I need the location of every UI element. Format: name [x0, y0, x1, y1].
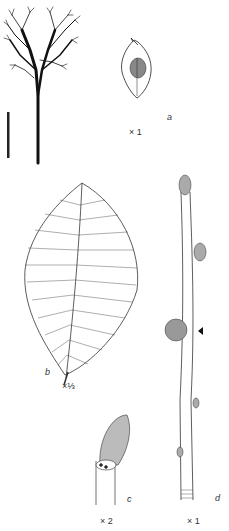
panel-b-scale: ×⅓	[62, 381, 75, 391]
panel-c-scale: × 2	[100, 516, 113, 526]
samara-illustration	[122, 38, 152, 98]
pointer-arrow-icon	[198, 327, 203, 335]
panel-a-letter: a	[167, 112, 172, 122]
panel-c-letter: c	[127, 494, 132, 504]
panel-d-letter: d	[215, 493, 220, 503]
botanical-plate	[0, 0, 229, 531]
bud-closeup-illustration	[96, 415, 130, 505]
panel-b-letter: b	[45, 367, 50, 377]
panel-a-scale: × 1	[129, 127, 142, 137]
panel-d-scale: × 1	[187, 516, 200, 526]
leaf-illustration	[25, 183, 138, 385]
twig-illustration	[165, 175, 206, 500]
scale-bar	[7, 112, 10, 158]
tree-illustration	[4, 7, 80, 163]
